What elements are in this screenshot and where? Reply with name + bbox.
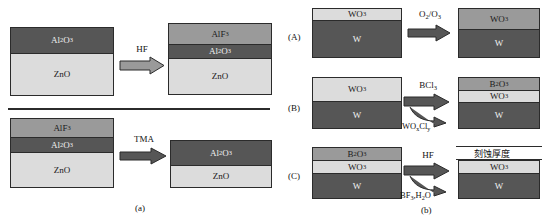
layer-zno: ZnO: [11, 153, 113, 187]
panel-b-row-C-after-stack: WO3 W: [458, 160, 540, 199]
panel-b-row-C-before-stack: B2O3 WO3 W: [312, 147, 402, 199]
panel-b-row-A-reactant-label: O2/O3: [404, 9, 456, 20]
panel-b-row-C-label: (C): [288, 171, 300, 181]
panel-b-row-A-arrow: [408, 25, 450, 41]
layer-zno: ZnO: [171, 166, 271, 187]
panel-a-row-0-arrow: [120, 57, 164, 74]
layer-zno: ZnO: [11, 54, 113, 95]
layer-alf3: AlF3: [169, 24, 271, 45]
layer-wo3: WO3: [459, 9, 539, 30]
layer-b2o3: B2O3: [313, 148, 401, 161]
panel-a-row-1-after-stack: Al2O3 ZnO: [170, 140, 272, 188]
layer-wo3: WO3: [313, 161, 401, 174]
layer-al2o3: Al2O3: [169, 45, 271, 59]
layer-wo3: WO3: [459, 91, 539, 103]
layer-wo3: WO3: [313, 9, 401, 21]
layer-zno: ZnO: [169, 59, 271, 94]
layer-alf3: AlF3: [11, 119, 113, 138]
panel-b-row-C-arrow: [404, 163, 452, 193]
layer-w: W: [313, 174, 401, 198]
panel-a-row-1-reactant-label: TMA: [118, 134, 170, 144]
panel-a-row-0-before-stack: Al2O3 ZnO: [10, 27, 114, 96]
panel-a: Al2O3 ZnO HF AlF3 Al2O3 ZnO AlF3 Al2O3 Z…: [0, 0, 278, 220]
layer-al2o3: Al2O3: [171, 141, 271, 166]
panel-b-row-B-before-stack: WO3 W: [312, 77, 402, 129]
layer-w: W: [313, 21, 401, 57]
layer-w: W: [459, 103, 539, 128]
layer-b2o3: B2O3: [459, 78, 539, 91]
panel-a-row-1-before-stack: AlF3 Al2O3 ZnO: [10, 118, 114, 188]
layer-al2o3: Al2O3: [11, 138, 113, 153]
panel-b-row-A-after-stack: WO3 W: [458, 8, 540, 58]
panel-a-divider: [8, 108, 270, 110]
layer-w: W: [459, 174, 539, 198]
panel-b-row-B-byproduct-label: WOxCly: [402, 121, 430, 132]
panel-b-row-A-before-stack: WO3 W: [312, 8, 402, 58]
panel-b-row-B-reactant-label: BCl3: [402, 80, 454, 91]
layer-wo3: WO3: [459, 161, 539, 174]
panel-a-tag: (a): [135, 203, 145, 213]
panel-b-row-B-label: (B): [288, 103, 300, 113]
layer-al2o3: Al2O3: [11, 28, 113, 54]
layer-w: W: [459, 30, 539, 57]
layer-wo3: WO3: [313, 78, 401, 102]
panel-b-tag: (b): [421, 205, 432, 215]
etch-thickness-annotation: 刻蚀厚度: [474, 147, 510, 160]
layer-w: W: [313, 102, 401, 128]
panel-b-row-B-arrow: [404, 94, 452, 124]
panel-b-row-C-reactant-label: HF: [402, 150, 454, 160]
panel-b-row-A-label: (A): [288, 32, 301, 42]
panel-b-row-C-byproduct-label: BF3,H2O: [400, 190, 431, 201]
panel-a-row-0-after-stack: AlF3 Al2O3 ZnO: [168, 23, 272, 95]
panel-a-row-1-arrow: [120, 148, 166, 164]
panel-b: (A) WO3 W O2/O3 WO3 W (B) WO3 W BCl3 WOx…: [278, 0, 548, 220]
panel-b-row-B-after-stack: B2O3 WO3 W: [458, 77, 540, 129]
panel-a-row-0-reactant-label: HF: [118, 44, 166, 54]
